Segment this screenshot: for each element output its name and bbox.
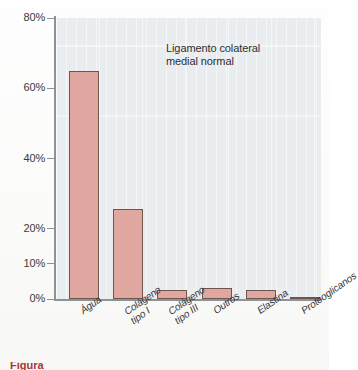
caption-figure-label: Figura (10, 362, 44, 370)
y-tick-mark (47, 88, 55, 89)
chart-annotation: Ligamento colateral medial normal (166, 42, 260, 68)
y-tick-label: 20% (1, 222, 45, 234)
y-tick-label: 10% (1, 257, 45, 269)
y-tick-label: 80% (1, 11, 45, 23)
bar (113, 209, 143, 299)
y-tick-label: 40% (1, 152, 45, 164)
y-tick-mark (47, 158, 55, 159)
x-axis-labels: ÁguaColágeno tipo IColágeno tipo IIIOutr… (0, 299, 329, 370)
caption-strip: Figura (0, 362, 329, 370)
y-tick-mark (47, 18, 55, 19)
y-tick-mark (47, 263, 55, 264)
bar (69, 71, 99, 299)
y-tick-mark (47, 228, 55, 229)
y-tick-label: 60% (1, 81, 45, 93)
